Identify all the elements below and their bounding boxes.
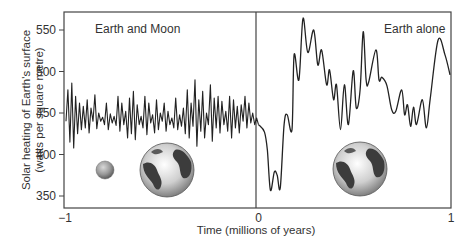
- x-axis-title: Time (millions of years): [197, 224, 316, 236]
- x-tick-label: −1: [58, 211, 72, 225]
- y-tick-label: 550: [36, 23, 56, 37]
- y-axis-units: (watts per square metre): [33, 47, 45, 172]
- earth-icon: [140, 143, 194, 197]
- earth-icon: [333, 142, 387, 196]
- series-earth-and-moon-line: [66, 80, 259, 148]
- moon-icon: [96, 161, 114, 179]
- x-tick-label: 1: [448, 211, 455, 225]
- x-axis-ticks: −101: [58, 211, 455, 225]
- panel-label-earth-and-moon: Earth and Moon: [95, 22, 180, 36]
- x-tick-label: 0: [255, 211, 262, 225]
- y-tick-label: 350: [36, 189, 56, 203]
- chart: 350400450500550 −101 Solar heating of Ea…: [0, 0, 475, 241]
- panel-label-earth-alone: Earth alone: [384, 22, 446, 36]
- y-axis-title: Solar heating of Earth's surface: [20, 30, 32, 190]
